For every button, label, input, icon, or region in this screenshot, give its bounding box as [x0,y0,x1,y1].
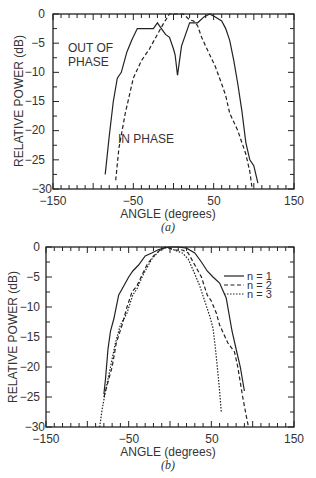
xtick-label: 50 [205,432,219,446]
ytick-label: 0 [33,240,40,254]
y-axis-label-a: RELATIVE POWER (dB) [12,35,26,167]
legend-b: n = 1 n = 2 n = 3 [224,270,272,300]
ytick-label: −10 [20,300,41,314]
y-axis-label-b: RELATIVE POWER (dB) [6,271,20,403]
xtick-label: −150 [39,194,66,208]
figure: 0 −5 −10 −15 −20 −25 −30 −150 −50 50 150… [0,0,316,478]
legend-label-n3: n = 3 [247,288,272,300]
series-line-n-1 [104,247,245,394]
xtick-label: 150 [284,432,304,446]
x-axis-label-b: ANGLE (degrees) [120,445,215,459]
caption-a: (a) [161,220,175,234]
series-a [105,14,258,189]
annotation-in-phase: IN PHASE [118,132,174,146]
series-line-out-of-phase [105,14,258,183]
ytick-label: −20 [25,123,46,137]
chart-b: 0 −5 −10 −15 −20 −25 −30 −150 −50 50 150… [6,240,304,472]
series-b [100,247,249,427]
ytick-label: −5 [26,270,40,284]
annotation-out-of-phase-2: PHASE [68,55,109,69]
ytick-label: −15 [25,94,46,108]
ytick-label: −20 [20,360,41,374]
xtick-label: 150 [284,194,304,208]
series-line-n-2 [104,247,249,427]
ytick-label: −25 [25,153,46,167]
xtick-label: 50 [207,194,221,208]
ytick-label: −25 [20,390,41,404]
ytick-label: −5 [31,36,45,50]
ytick-label: −10 [25,65,46,79]
xtick-label: −150 [32,432,59,446]
ytick-label: −15 [20,330,41,344]
caption-b: (b) [161,458,175,472]
x-axis-label-a: ANGLE (degrees) [120,207,215,221]
xtick-label: −50 [123,194,144,208]
ytick-label: 0 [38,7,45,21]
xtick-label: −50 [119,432,140,446]
chart-a: 0 −5 −10 −15 −20 −25 −30 −150 −50 50 150… [12,7,304,234]
annotation-out-of-phase: OUT OF [68,41,113,55]
